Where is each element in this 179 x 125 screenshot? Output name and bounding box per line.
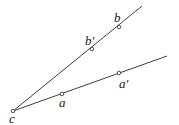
point-a-prime xyxy=(117,71,121,75)
upper-ray xyxy=(13,6,142,111)
diagram-canvas: cb′baa′ xyxy=(0,0,179,125)
point-b xyxy=(117,25,121,29)
label-b-prime: b′ xyxy=(85,33,95,48)
label-b: b xyxy=(114,10,121,25)
lower-ray xyxy=(13,56,167,111)
label-c: c xyxy=(9,111,15,125)
label-a: a xyxy=(59,95,66,110)
label-a-prime: a′ xyxy=(119,76,129,91)
